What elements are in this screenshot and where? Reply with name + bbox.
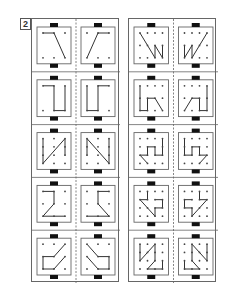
right-drawing-card[interactable] xyxy=(81,181,115,226)
grid-dot xyxy=(162,199,164,201)
grid-dot xyxy=(154,191,156,193)
grid-dot xyxy=(154,146,156,148)
grid-dot xyxy=(139,268,141,270)
tab-marker-top xyxy=(192,23,200,27)
tab-marker-top xyxy=(147,23,155,27)
left-drawing-card xyxy=(37,76,71,121)
grid-dot xyxy=(154,215,156,217)
grid-dot xyxy=(162,97,164,99)
grid-dot xyxy=(206,154,208,156)
grid-dot xyxy=(199,85,201,87)
grid-dot xyxy=(199,57,201,59)
grid-dot xyxy=(97,203,99,205)
grid-dot xyxy=(206,260,208,262)
grid-dot xyxy=(206,32,208,34)
grid-dot xyxy=(162,110,164,112)
grid-dot xyxy=(154,243,156,245)
tab-marker-bottom xyxy=(94,64,102,68)
grid-dot xyxy=(206,163,208,165)
grid-dot xyxy=(53,110,55,112)
grid-dot xyxy=(86,32,88,34)
tab-marker-bottom xyxy=(94,222,102,226)
grid-dot xyxy=(162,215,164,217)
grid-dot xyxy=(199,163,201,165)
grid-dot xyxy=(86,146,88,148)
grid-dot xyxy=(139,243,141,245)
grid-dot xyxy=(147,243,149,245)
exercise-number-badge: 2 xyxy=(20,18,31,30)
grid-dot xyxy=(64,85,66,87)
grid-dot xyxy=(42,243,44,245)
grid-dot xyxy=(199,146,201,148)
grid-dot xyxy=(199,207,201,209)
grid-dot xyxy=(184,57,186,59)
grid-dot xyxy=(206,85,208,87)
grid-dot xyxy=(42,154,44,156)
grid-dot xyxy=(139,163,141,165)
tab-marker-bottom xyxy=(50,275,58,279)
grid-dot xyxy=(97,110,99,112)
right-drawing-card[interactable] xyxy=(81,129,115,174)
tab-marker-top xyxy=(94,181,102,185)
grid-dot xyxy=(199,110,201,112)
grid-dot xyxy=(162,45,164,47)
grid-dot xyxy=(108,146,110,148)
grid-dot xyxy=(97,163,99,165)
right-drawing-card[interactable] xyxy=(179,76,214,121)
grid-dot xyxy=(191,57,193,59)
grid-dot xyxy=(139,97,141,99)
grid-dot xyxy=(199,97,201,99)
grid-dot xyxy=(53,215,55,217)
tab-marker-top xyxy=(192,181,200,185)
grid-dot xyxy=(184,215,186,217)
grid-dot xyxy=(42,138,44,140)
right-drawing-card[interactable] xyxy=(81,234,115,279)
grid-dot xyxy=(86,243,88,245)
grid-dot xyxy=(199,191,201,193)
right-drawing-card[interactable] xyxy=(81,76,115,121)
grid-dot xyxy=(64,268,66,270)
grid-dot xyxy=(147,163,149,165)
tab-marker-bottom xyxy=(192,275,200,279)
tab-marker-top xyxy=(50,234,58,238)
grid-dot xyxy=(154,85,156,87)
grid-dot xyxy=(206,146,208,148)
tab-marker-bottom xyxy=(192,64,200,68)
grid-dot xyxy=(191,110,193,112)
tab-marker-bottom xyxy=(147,222,155,226)
right-drawing-card[interactable] xyxy=(179,23,214,68)
grid-dot xyxy=(97,243,99,245)
grid-dot xyxy=(86,57,88,59)
grid-dot xyxy=(191,32,193,34)
grid-dot xyxy=(64,256,66,258)
grid-dot xyxy=(86,203,88,205)
tab-marker-bottom xyxy=(50,117,58,121)
grid-dot xyxy=(147,146,149,148)
left-drawing-card xyxy=(37,129,71,174)
grid-dot xyxy=(162,260,164,262)
grid-dot xyxy=(191,191,193,193)
grid-dot xyxy=(184,154,186,156)
grid-dot xyxy=(191,215,193,217)
right-drawing-card[interactable] xyxy=(81,23,115,68)
tab-marker-top xyxy=(147,181,155,185)
grid-dot xyxy=(42,32,44,34)
left-drawing-card xyxy=(134,23,169,68)
grid-dot xyxy=(64,146,66,148)
tab-marker-bottom xyxy=(94,169,102,173)
grid-dot xyxy=(206,243,208,245)
grid-dot xyxy=(206,110,208,112)
right-drawing-card[interactable] xyxy=(179,129,214,174)
grid-dot xyxy=(199,138,201,140)
grid-dot xyxy=(42,256,44,258)
right-drawing-card[interactable] xyxy=(179,181,214,226)
tab-marker-top xyxy=(192,129,200,133)
grid-dot xyxy=(199,268,201,270)
right-drawing-card[interactable] xyxy=(179,234,214,279)
grid-dot xyxy=(86,215,88,217)
tab-marker-bottom xyxy=(50,222,58,226)
grid-dot xyxy=(184,260,186,262)
grid-dot xyxy=(147,191,149,193)
left-drawing-card xyxy=(134,181,169,226)
tab-marker-bottom xyxy=(50,169,58,173)
